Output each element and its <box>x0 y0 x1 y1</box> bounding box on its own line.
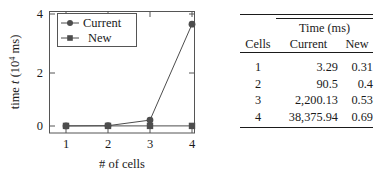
cell-cells: 4 <box>240 109 276 126</box>
y-axis-title-unit-open: (10 <box>8 61 22 81</box>
data-point-current-4 <box>189 21 196 28</box>
cell-current: 90.5 <box>276 75 341 92</box>
table-row: 3 2,200.13 0.53 <box>240 92 373 109</box>
x-tick-label-1: 1 <box>63 137 69 151</box>
chart-canvas: 0 2 4 1 2 3 4 # of cells <box>0 0 215 186</box>
table-header-cells: Cells <box>240 36 276 53</box>
y-axis-title: time t (104 ms) <box>8 35 22 110</box>
cell-new: 0.53 <box>341 92 373 109</box>
results-table-container: Time (ms) Cells Current New 1 3.29 0.31 <box>240 14 386 131</box>
x-tick-label-4: 4 <box>189 137 196 151</box>
data-point-current-3 <box>147 117 154 124</box>
y-tick-label-4: 4 <box>37 7 44 21</box>
figure-and-table-root: 0 2 4 1 2 3 4 # of cells <box>0 0 386 186</box>
results-table: Time (ms) Cells Current New 1 3.29 0.31 <box>240 14 373 131</box>
data-point-new-3 <box>147 123 153 129</box>
data-point-new-4 <box>189 123 195 129</box>
x-axis-title: # of cells <box>99 157 145 171</box>
legend-label-new: New <box>88 31 112 45</box>
cell-current: 38,375.94 <box>276 109 341 126</box>
y-tick-label-0: 0 <box>37 119 43 133</box>
x-tick-label-2: 2 <box>105 137 111 151</box>
cell-new: 0.69 <box>341 109 373 126</box>
table-row: 2 90.5 0.4 <box>240 75 373 92</box>
cell-new: 0.31 <box>341 58 373 75</box>
table-header-current: Current <box>276 36 341 53</box>
cell-cells: 1 <box>240 58 276 75</box>
y-axis-title-unit-close: ms) <box>8 35 22 57</box>
cell-new: 0.4 <box>341 75 373 92</box>
line-chart-figure: 0 2 4 1 2 3 4 # of cells <box>0 0 215 186</box>
cell-current: 3.29 <box>276 58 341 75</box>
y-tick-label-2: 2 <box>37 66 43 80</box>
table-row: 1 3.29 0.31 <box>240 58 373 75</box>
y-axis-title-prefix: time <box>8 84 22 109</box>
chart-legend: Current New <box>58 14 137 47</box>
legend-marker-square-icon <box>67 35 73 41</box>
table-header-new: New <box>341 36 373 53</box>
legend-marker-circle-icon <box>67 20 73 26</box>
table-row: 4 38,375.94 0.69 <box>240 109 373 126</box>
legend-label-current: Current <box>83 16 122 30</box>
svg-text:time t (104 ms): time t (104 ms) <box>8 35 22 110</box>
cell-cells: 3 <box>240 92 276 109</box>
table-header-row: Cells Current New <box>240 36 373 53</box>
data-point-current-2 <box>105 122 112 129</box>
x-tick-label-3: 3 <box>147 137 153 151</box>
cell-current: 2,200.13 <box>276 92 341 109</box>
table-rule-bottom <box>240 128 373 132</box>
data-point-current-1 <box>63 123 70 130</box>
cell-cells: 2 <box>240 75 276 92</box>
table-group-header-time: Time (ms) <box>276 19 373 37</box>
table-group-header-row: Time (ms) <box>240 19 373 37</box>
